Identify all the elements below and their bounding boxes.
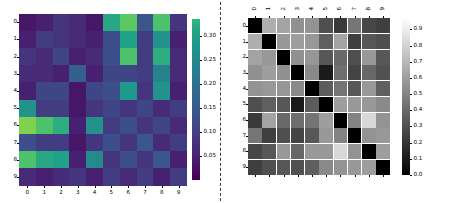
right-heatmap-grid[interactable]	[248, 18, 390, 175]
right-colorbar-tick-label: 0.3	[414, 124, 423, 130]
left-heatmap-x-tickmark	[44, 186, 45, 188]
right-heatmap-y-tickmark	[246, 104, 248, 105]
heatmap-cell	[53, 117, 70, 134]
right-colorbar-tickmark	[410, 94, 412, 95]
heatmap-cell	[153, 31, 170, 48]
heatmap-cell	[120, 31, 137, 48]
heatmap-cell	[120, 82, 137, 99]
heatmap-cell	[86, 31, 103, 48]
heatmap-cell	[277, 50, 291, 65]
left-heatmap-x-tick-label: 9	[177, 190, 181, 196]
heatmap-cell	[36, 14, 53, 31]
right-colorbar-tickmark	[410, 46, 412, 47]
heatmap-cell	[19, 82, 36, 99]
left-heatmap-x-tickmark	[179, 186, 180, 188]
left-heatmap-x-tickmark	[145, 186, 146, 188]
heatmap-cell	[362, 50, 376, 65]
left-heatmap-x-tick-label: 4	[93, 190, 97, 196]
heatmap-cell	[86, 151, 103, 168]
heatmap-cell	[137, 168, 154, 185]
heatmap-cell	[248, 18, 262, 33]
heatmap-cell	[120, 117, 137, 134]
left-heatmap-grid[interactable]	[19, 14, 187, 186]
left-heatmap-x-tick-label: 6	[126, 190, 130, 196]
panel-divider	[220, 2, 221, 201]
heatmap-cell	[248, 160, 262, 175]
heatmap-cell	[348, 34, 362, 49]
right-heatmap-y-tick-label: 3	[239, 70, 246, 76]
heatmap-cell	[53, 168, 70, 185]
left-colorbar[interactable]	[192, 19, 200, 180]
heatmap-cell	[153, 168, 170, 185]
heatmap-cell	[362, 113, 376, 128]
heatmap-cell	[120, 65, 137, 82]
right-colorbar[interactable]	[402, 18, 410, 175]
heatmap-cell	[291, 128, 305, 143]
left-heatmap-x-tickmark	[162, 186, 163, 188]
right-colorbar-tick-label: 0.9	[414, 27, 423, 33]
right-colorbar-tickmark	[410, 62, 412, 63]
heatmap-cell	[103, 31, 120, 48]
heatmap-cell	[120, 151, 137, 168]
heatmap-cell	[137, 48, 154, 65]
heatmap-cell	[248, 113, 262, 128]
right-colorbar-tick-label: 0.2	[414, 140, 423, 146]
heatmap-cell	[262, 128, 276, 143]
heatmap-cell	[170, 65, 187, 82]
heatmap-cell	[305, 34, 319, 49]
heatmap-cell	[319, 144, 333, 159]
left-heatmap-y-tickmark	[17, 125, 19, 126]
heatmap-cell	[53, 100, 70, 117]
heatmap-cell	[362, 65, 376, 80]
heatmap-cell	[153, 134, 170, 151]
heatmap-cell	[376, 50, 390, 65]
heatmap-cell	[36, 82, 53, 99]
left-heatmap-x-tickmark	[95, 186, 96, 188]
heatmap-cell	[86, 134, 103, 151]
left-heatmap-y-tickmark	[17, 74, 19, 75]
right-colorbar-tick-label: 0.5	[414, 91, 423, 97]
heatmap-cell	[53, 151, 70, 168]
right-heatmap-x-tickmark	[298, 16, 299, 18]
right-heatmap-x-tickmark	[312, 175, 313, 177]
heatmap-cell	[305, 81, 319, 96]
heatmap-cell	[19, 117, 36, 134]
left-heatmap-x-tick-label: 0	[26, 190, 30, 196]
right-heatmap-y-tickmark	[246, 89, 248, 90]
heatmap-cell	[120, 168, 137, 185]
heatmap-cell	[69, 65, 86, 82]
heatmap-cell	[319, 34, 333, 49]
left-colorbar-tick-label: 0.30	[204, 33, 216, 39]
left-heatmap-x-tickmark	[27, 186, 28, 188]
heatmap-cell	[248, 50, 262, 65]
right-heatmap-y-tick-label: 2	[239, 54, 246, 60]
heatmap-cell	[86, 14, 103, 31]
heatmap-cell	[19, 14, 36, 31]
heatmap-cell	[103, 14, 120, 31]
right-colorbar-tickmark	[410, 78, 412, 79]
heatmap-cell	[362, 34, 376, 49]
heatmap-cell	[348, 113, 362, 128]
heatmap-cell	[277, 113, 291, 128]
right-heatmap-y-tick-label: 1	[239, 39, 246, 45]
heatmap-cell	[153, 65, 170, 82]
left-colorbar-tick-label: 0.05	[204, 153, 216, 159]
heatmap-cell	[86, 117, 103, 134]
heatmap-cell	[277, 81, 291, 96]
left-heatmap-y-tick-label: 8	[10, 157, 17, 163]
left-heatmap-x-tickmark	[78, 186, 79, 188]
heatmap-cell	[319, 160, 333, 175]
heatmap-cell	[53, 134, 70, 151]
right-heatmap-x-tick-label: 5	[324, 6, 328, 12]
right-heatmap-x-tickmark	[369, 16, 370, 18]
heatmap-cell	[153, 82, 170, 99]
right-colorbar-tickmark	[410, 175, 412, 176]
right-heatmap-y-tick-label: 9	[239, 164, 246, 170]
heatmap-cell	[277, 65, 291, 80]
heatmap-cell	[277, 160, 291, 175]
left-colorbar-tickmark	[200, 60, 202, 61]
heatmap-cell	[69, 151, 86, 168]
heatmap-cell	[170, 100, 187, 117]
left-colorbar-tick-label: 0.10	[204, 129, 216, 135]
right-colorbar-tickmark	[410, 143, 412, 144]
